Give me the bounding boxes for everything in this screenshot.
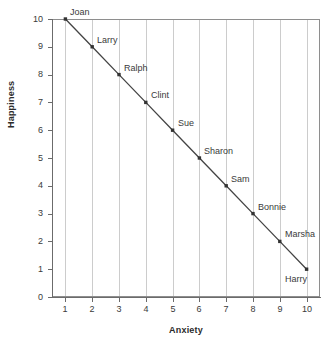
data-point-clint[interactable] bbox=[144, 101, 147, 104]
point-label-clint: Clint bbox=[151, 91, 169, 100]
x-axis-title: Anxiety bbox=[52, 325, 320, 335]
data-point-joan[interactable] bbox=[64, 17, 67, 20]
point-label-larry: Larry bbox=[97, 36, 118, 45]
series-line bbox=[65, 19, 306, 269]
point-label-sam: Sam bbox=[231, 175, 250, 184]
point-label-joan: Joan bbox=[70, 8, 90, 17]
y-axis-title: Happiness bbox=[6, 81, 16, 128]
chart-container: 012345678910 12345678910 JoanLarryRalphC… bbox=[0, 0, 336, 347]
point-label-marsha: Marsha bbox=[285, 230, 315, 239]
point-label-harry: Harry bbox=[285, 275, 307, 284]
data-series bbox=[0, 0, 336, 347]
point-label-sue: Sue bbox=[178, 119, 194, 128]
data-point-sam[interactable] bbox=[225, 184, 228, 187]
data-point-marsha[interactable] bbox=[278, 240, 281, 243]
data-point-harry[interactable] bbox=[305, 268, 308, 271]
data-point-bonnie[interactable] bbox=[251, 212, 254, 215]
data-point-larry[interactable] bbox=[91, 45, 94, 48]
data-point-ralph[interactable] bbox=[117, 73, 120, 76]
data-point-sharon[interactable] bbox=[198, 156, 201, 159]
point-label-bonnie: Bonnie bbox=[258, 203, 286, 212]
point-label-ralph: Ralph bbox=[124, 64, 148, 73]
point-label-sharon: Sharon bbox=[204, 147, 233, 156]
data-point-sue[interactable] bbox=[171, 129, 174, 132]
